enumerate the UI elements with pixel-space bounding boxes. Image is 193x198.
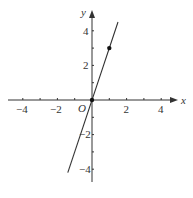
- y-axis-label: y: [80, 6, 86, 18]
- point-origin: [90, 98, 94, 102]
- origin-label: O: [78, 102, 86, 114]
- y-axis-arrow-icon: [89, 10, 95, 18]
- x-axis-label: x: [180, 94, 186, 106]
- y-tick-label-neg2: −2: [79, 128, 91, 140]
- x-tick-label-4: 4: [158, 103, 164, 115]
- y-tick-label-neg4: −4: [79, 163, 91, 175]
- coordinate-plane: x y O −4 −2 2 4 4 2 −2 −4: [0, 0, 193, 198]
- y-tick-label-4: 4: [83, 25, 89, 37]
- x-axis-arrow-icon: [170, 97, 178, 103]
- x-tick-label-neg4: −4: [16, 103, 28, 115]
- line-y-equals-3x: [68, 22, 118, 173]
- x-tick-label-neg2: −2: [50, 103, 62, 115]
- point-1-3: [107, 46, 111, 50]
- x-tick-label-2: 2: [124, 103, 130, 115]
- y-tick-label-2: 2: [83, 59, 89, 71]
